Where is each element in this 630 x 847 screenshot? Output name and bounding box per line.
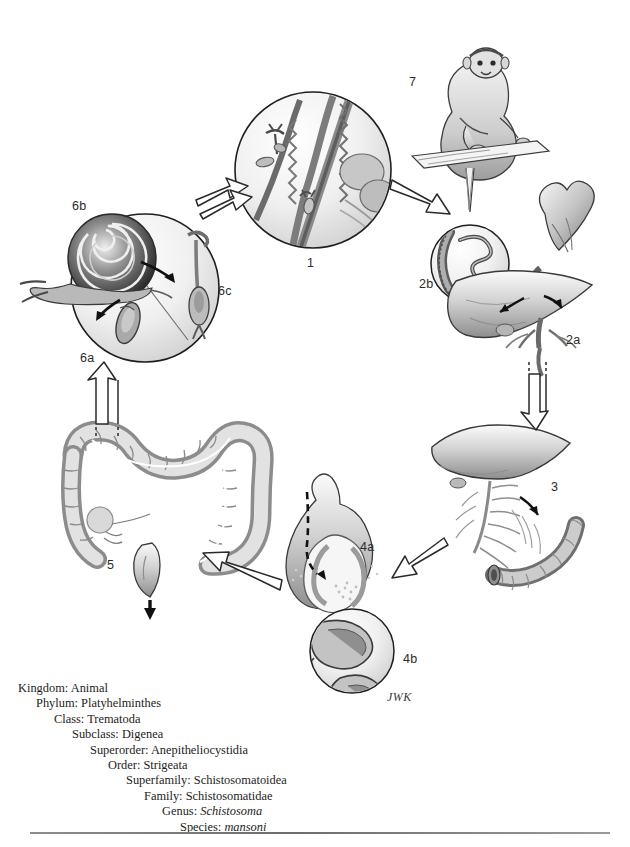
taxonomy-row: Family: Schistosomatidae xyxy=(18,789,418,804)
taxonomy-row: Genus: Schistosoma xyxy=(18,804,418,819)
stage-3-illustration xyxy=(432,425,582,590)
taxonomy-block: Kingdom: Animal Phylum: Platyhelminthes … xyxy=(18,681,418,835)
taxonomy-value: Trematoda xyxy=(87,712,140,726)
stage-label-1: 1 xyxy=(307,256,314,270)
footer-rule xyxy=(30,832,610,834)
taxonomy-value: Strigeata xyxy=(143,758,187,772)
taxonomy-value: Animal xyxy=(71,681,108,695)
taxonomy-rank: Kingdom: xyxy=(18,681,68,695)
stage-label-3: 3 xyxy=(551,480,558,494)
taxonomy-row: Kingdom: Animal xyxy=(18,681,418,696)
taxonomy-rank: Subclass: xyxy=(72,727,119,741)
stage-label-4b: 4b xyxy=(403,652,417,666)
taxonomy-row: Superfamily: Schistosomatoidea xyxy=(18,773,418,788)
stage-label-7: 7 xyxy=(409,75,416,89)
taxonomy-rank: Phylum: xyxy=(36,696,78,710)
stage-6-illustration xyxy=(20,214,219,362)
stage-7-illustration xyxy=(412,48,549,212)
stage-label-2b: 2b xyxy=(419,277,433,291)
stage-label-4a: 4a xyxy=(360,540,374,554)
life-cycle-figure: 1 2b 2a 3 4a 4b 5 6a 6b 6c 7 JWK Kingdom… xyxy=(0,0,630,847)
taxonomy-value: Platyhelminthes xyxy=(81,696,161,710)
taxonomy-value: Digenea xyxy=(122,727,163,741)
taxonomy-row: Superorder: Anepitheliocystidia xyxy=(18,743,418,758)
taxonomy-value: Schistosomatoidea xyxy=(194,773,287,787)
taxonomy-value: Schistosoma xyxy=(200,804,262,818)
stage-5-illustration xyxy=(64,430,263,620)
stage-1-illustration xyxy=(235,92,396,250)
taxonomy-rank: Genus: xyxy=(162,804,197,818)
taxonomy-rank: Superfamily: xyxy=(126,773,191,787)
stage-label-5: 5 xyxy=(107,558,114,572)
stage-label-6a: 6a xyxy=(80,351,94,365)
stage-label-6c: 6c xyxy=(218,284,232,298)
taxonomy-value: Schistosomatidae xyxy=(186,789,273,803)
taxonomy-row: Subclass: Digenea xyxy=(18,727,418,742)
taxonomy-rank: Family: xyxy=(144,789,183,803)
taxonomy-row: Phylum: Platyhelminthes xyxy=(18,696,418,711)
stage-label-6b: 6b xyxy=(72,199,86,213)
taxonomy-value: Anepitheliocystidia xyxy=(151,743,248,757)
taxonomy-rank: Superorder: xyxy=(90,743,149,757)
taxonomy-row: Class: Trematoda xyxy=(18,712,418,727)
taxonomy-row: Order: Strigeata xyxy=(18,758,418,773)
taxonomy-rank: Class: xyxy=(54,712,84,726)
taxonomy-rank: Order: xyxy=(108,758,140,772)
stage-label-2a: 2a xyxy=(566,333,580,347)
